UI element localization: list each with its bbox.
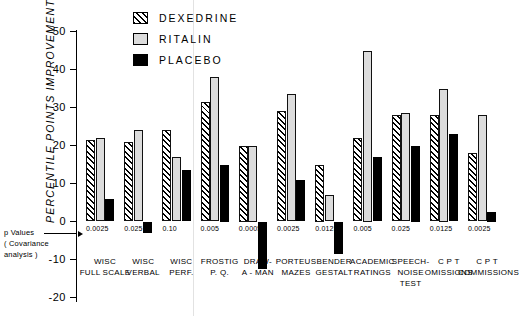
p-value-label: 0.0125 (430, 225, 453, 232)
bar-ritalin (439, 89, 448, 222)
y-tick-label: 40 (0, 63, 66, 75)
bar-placebo (449, 134, 458, 221)
bar-ritalin (287, 94, 296, 221)
p-value-label: 0.005 (353, 225, 372, 232)
y-tick-label: 0 (0, 215, 66, 227)
p-value-label: 0.0025 (86, 225, 109, 232)
bar-placebo (411, 146, 420, 222)
y-tick-mark (70, 145, 76, 146)
bar-dexedrine (392, 115, 401, 221)
y-tick-label: 30 (0, 101, 66, 113)
y-tick-label: 50 (0, 25, 66, 37)
bar-placebo (143, 222, 152, 233)
bar-ritalin (210, 77, 219, 221)
y-tick-mark (70, 31, 76, 32)
p-value-label: 0.0005 (239, 225, 262, 232)
p-value-label: 0.0025 (468, 225, 491, 232)
y-tick-label: -20 (0, 291, 66, 303)
bar-ritalin (325, 195, 334, 222)
y-tick-mark (70, 183, 76, 184)
bar-placebo (105, 199, 114, 222)
bar-ritalin (96, 138, 105, 222)
p-value-label: 0.025 (392, 225, 411, 232)
p-values-leader-line (44, 233, 76, 234)
bar-ritalin (172, 157, 181, 222)
y-tick-mark (70, 69, 76, 70)
p-value-label: 0.005 (201, 225, 220, 232)
bar-placebo (182, 170, 191, 221)
p-value-label: 0.10 (162, 225, 176, 232)
bar-dexedrine (239, 146, 248, 222)
bar-dexedrine (201, 102, 210, 222)
p-value-label: 0.0025 (277, 225, 300, 232)
y-tick-mark (70, 221, 76, 222)
bar-ritalin (134, 130, 143, 221)
bar-ritalin (363, 51, 372, 222)
bar-dexedrine (353, 138, 362, 222)
p-value-label: 0.0125 (315, 225, 338, 232)
bar-dexedrine (162, 130, 171, 221)
bar-dexedrine (468, 153, 477, 221)
y-axis-title: PERCENTILE POINTS IMPROVEMENT (44, 13, 56, 223)
bar-ritalin (478, 115, 487, 221)
bar-dexedrine (124, 142, 133, 222)
p-values-sub1: ( Covariance (4, 238, 49, 249)
y-tick-label: 10 (0, 177, 66, 189)
category-label: C P T COMMISSIONS (458, 256, 516, 278)
bar-placebo (487, 212, 496, 222)
bar-dexedrine (277, 111, 286, 221)
bar-dexedrine (430, 115, 439, 221)
bar-ritalin (401, 113, 410, 221)
y-tick-label: 20 (0, 139, 66, 151)
p-values-annotation: p Values ( Covariance analysis ) (4, 227, 49, 260)
bar-groups: 0.0025WISC FULL SCALE0.025WISC VERBAL0.1… (78, 0, 502, 316)
p-value-label: 0.025 (124, 225, 143, 232)
bar-ritalin (248, 146, 257, 222)
bar-placebo (220, 165, 229, 222)
bar-group: 0.0025C P T COMMISSIONS (468, 0, 506, 316)
y-tick-mark (70, 107, 76, 108)
p-values-label: p Values (4, 227, 49, 238)
bar-placebo (373, 157, 382, 222)
bar-placebo (296, 180, 305, 222)
bar-dexedrine (315, 165, 324, 222)
p-values-sub2: analysis ) (4, 249, 49, 260)
bar-dexedrine (86, 140, 95, 222)
y-tick-mark (70, 297, 76, 298)
